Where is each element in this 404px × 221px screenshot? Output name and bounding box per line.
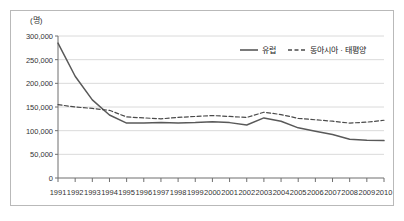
y-tick-label: 100,000 [11, 126, 53, 135]
y-tick-label: 200,000 [11, 79, 53, 88]
y-tick-label: 0 [11, 174, 53, 183]
y-axis-unit-label: (명) [30, 14, 42, 25]
legend-line-solid-icon [240, 46, 258, 54]
x-tick-label: 2010 [372, 188, 396, 197]
y-tick-label: 250,000 [11, 55, 53, 64]
chart-figure: (명) 050,000100,000150,000200,000250,0003… [0, 0, 404, 221]
chart-legend: 유럽 동아시아 · 태평양 [240, 44, 366, 55]
chart-frame [10, 10, 394, 206]
y-tick-label: 150,000 [11, 103, 53, 112]
legend-label-east-asia-pacific: 동아시아 · 태평양 [310, 44, 366, 55]
legend-item-east-asia-pacific: 동아시아 · 태평양 [288, 44, 366, 55]
legend-label-europe: 유럽 [262, 44, 276, 55]
y-tick-label: 50,000 [11, 150, 53, 159]
legend-line-dashed-icon [288, 46, 306, 54]
y-tick-label: 300,000 [11, 32, 53, 41]
legend-item-europe: 유럽 [240, 44, 276, 55]
